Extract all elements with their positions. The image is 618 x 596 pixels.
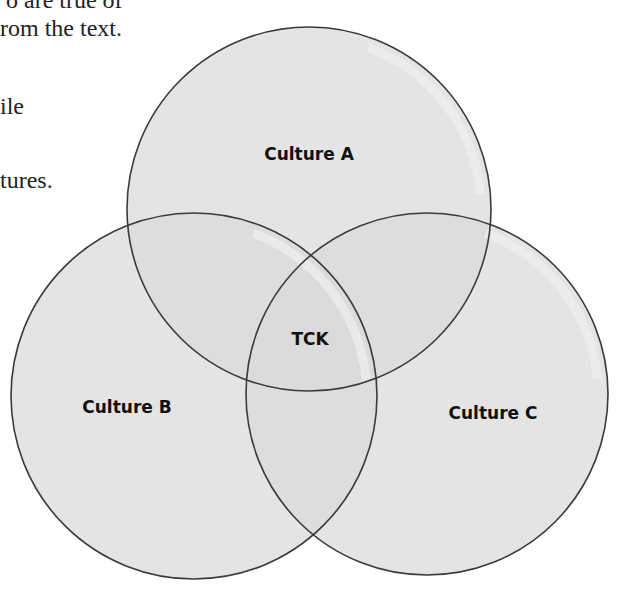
culture-b-label: Culture B	[82, 397, 171, 417]
venn-circles	[11, 27, 608, 579]
tck-label: TCK	[291, 329, 329, 349]
culture-c-circle	[246, 213, 608, 575]
venn-diagram: Culture A Culture B Culture C TCK	[0, 0, 618, 596]
culture-c-label: Culture C	[449, 403, 538, 423]
culture-a-label: Culture A	[264, 144, 354, 164]
